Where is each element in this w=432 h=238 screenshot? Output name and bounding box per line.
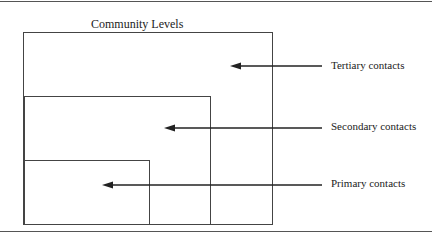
primary-contacts-label: Primary contacts <box>331 177 405 189</box>
arrows-layer <box>0 0 432 238</box>
community-levels-diagram: Community Levels Tertiary contacts Secon… <box>0 0 432 238</box>
primary-arrow-icon <box>102 182 322 189</box>
tertiary-arrow-icon <box>230 63 322 70</box>
tertiary-contacts-label: Tertiary contacts <box>331 59 404 71</box>
secondary-contacts-label: Secondary contacts <box>331 120 416 132</box>
secondary-arrow-icon <box>164 125 322 132</box>
